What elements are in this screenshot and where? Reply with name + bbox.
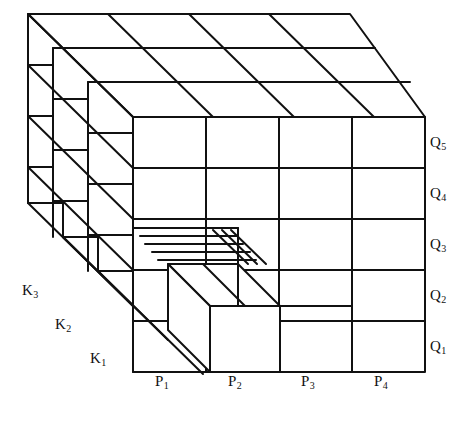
axis-label-p1: P1 (155, 374, 169, 389)
axis-label-k3: K3 (22, 283, 38, 298)
axis-label-p4: P4 (374, 374, 388, 389)
axis-label-q2: Q2 (430, 288, 446, 303)
axis-label-p3: P3 (301, 374, 315, 389)
axis-label-p2: P2 (228, 374, 242, 389)
axis-label-q3: Q3 (430, 237, 446, 252)
axis-label-q4: Q4 (430, 186, 446, 201)
axis-label-q1: Q1 (430, 339, 446, 354)
solid-wireframe (28, 14, 425, 374)
axis-label-q5: Q5 (430, 135, 446, 150)
axis-label-k2: K2 (55, 317, 71, 332)
figure-canvas: P1 P2 P3 P4 Q1 Q2 Q3 Q4 Q5 K1 K2 K3 (0, 0, 470, 424)
block-diagram-svg (0, 0, 470, 424)
drawer-front-face (210, 306, 280, 372)
axis-label-k1: K1 (90, 351, 106, 366)
